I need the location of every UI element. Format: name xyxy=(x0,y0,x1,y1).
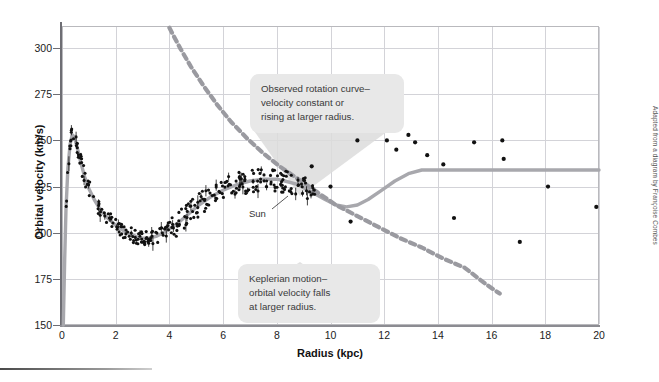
callout-line: orbital velocity falls xyxy=(249,286,369,300)
x-axis-tick-label: 10 xyxy=(316,329,346,341)
y-axis-tick-label: 300 xyxy=(18,42,52,54)
y-axis-tickmark xyxy=(53,94,60,95)
callout-line: velocity constant or xyxy=(261,96,393,110)
y-axis-tickmark xyxy=(53,48,60,49)
callout-line: at larger radius. xyxy=(249,300,369,314)
x-axis-tick-label: 2 xyxy=(101,329,131,341)
y-axis-tickmark xyxy=(53,140,60,141)
x-axis-tick-label: 6 xyxy=(208,329,238,341)
x-axis-tick-label: 14 xyxy=(423,329,453,341)
sun-label: Sun xyxy=(249,208,266,219)
figure-credit: Adapted from a diagram by Françoise Comb… xyxy=(652,106,659,246)
y-axis-tickmark xyxy=(53,325,60,326)
y-axis-title: Orbital velocity (km/s) xyxy=(33,82,45,282)
y-axis-tickmark xyxy=(53,233,60,234)
callout-line: Observed rotation curve– xyxy=(261,82,393,96)
y-axis-tickmark xyxy=(53,279,60,280)
x-axis-tick-label: 16 xyxy=(477,329,507,341)
y-axis-tickmark xyxy=(53,187,60,188)
x-axis-tick-label: 18 xyxy=(530,329,560,341)
bottom-rule xyxy=(0,368,152,370)
x-axis-tick-label: 20 xyxy=(584,329,614,341)
x-axis-tick-label: 8 xyxy=(262,329,292,341)
rotation-curve-figure: 02468101214161820150175200225250275300 O… xyxy=(0,0,659,382)
callout-line: Keplerian motion– xyxy=(249,272,369,286)
x-axis-tick-label: 12 xyxy=(369,329,399,341)
y-axis-tick-label: 150 xyxy=(18,319,52,331)
axis-tick-layer: 02468101214161820150175200225250275300 xyxy=(0,0,659,382)
x-axis-title: Radius (kpc) xyxy=(185,347,475,359)
observed-rotation-callout: Observed rotation curve– velocity consta… xyxy=(250,74,404,133)
keplerian-motion-callout: Keplerian motion– orbital velocity falls… xyxy=(238,264,380,323)
callout-line: rising at larger radius. xyxy=(261,110,393,124)
x-axis-tick-label: 4 xyxy=(154,329,184,341)
